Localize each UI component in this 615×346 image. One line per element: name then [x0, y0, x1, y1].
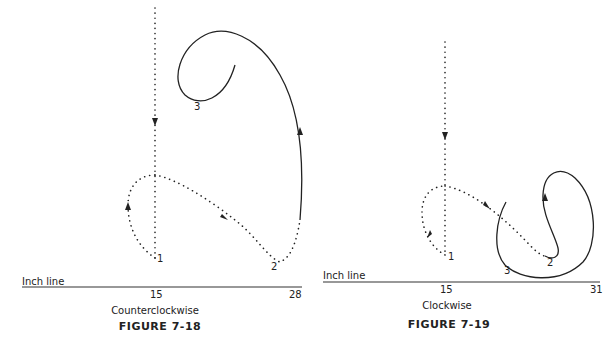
point-label-3: 3	[194, 101, 200, 112]
figure-7-19: 1 2 3 Inch line 15 31 Clockwise FIGURE 7…	[323, 42, 603, 331]
tick-label-15: 15	[150, 289, 163, 300]
direction-caption: Counterclockwise	[111, 305, 199, 316]
point-label-3: 3	[504, 265, 510, 276]
figure-title: FIGURE 7-18	[119, 320, 201, 333]
figures-canvas: 1 2 3 Inch line 15 28 Counterclockwise F…	[0, 0, 615, 346]
clockwise-solid-curve	[497, 172, 594, 278]
spiral-solid-curve	[178, 31, 302, 220]
point-label-1: 1	[157, 253, 163, 264]
axis-label: Inch line	[22, 276, 64, 287]
point-label-1: 1	[448, 251, 454, 262]
down-arrow-icon	[152, 118, 158, 126]
diagonal-path-dotted	[155, 175, 300, 262]
down-arrow-icon	[442, 132, 448, 140]
point-label-2: 2	[271, 261, 277, 272]
up-arrow-icon	[125, 202, 131, 210]
diagonal-arrow-icon	[483, 201, 490, 209]
direction-caption: Clockwise	[422, 300, 472, 311]
figure-7-18: 1 2 3 Inch line 15 28 Counterclockwise F…	[22, 8, 303, 333]
tick-label-31: 31	[590, 284, 603, 295]
axis-label: Inch line	[323, 270, 365, 281]
tick-label-15: 15	[440, 284, 453, 295]
point-label-2: 2	[547, 257, 553, 268]
up-arrow-icon	[427, 230, 432, 238]
tick-label-28: 28	[289, 289, 302, 300]
left-loop-dotted	[422, 186, 445, 255]
diagonal-path-dotted	[445, 186, 545, 256]
figure-title: FIGURE 7-19	[408, 318, 490, 331]
left-loop-dotted	[128, 175, 155, 258]
diagonal-arrow-icon	[220, 214, 228, 220]
